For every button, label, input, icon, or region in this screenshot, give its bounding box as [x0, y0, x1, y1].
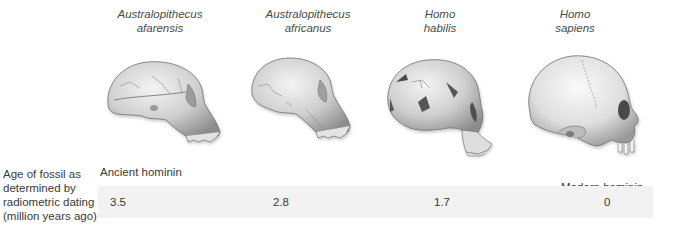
epithet: habilis: [390, 21, 490, 35]
skull-sapiens-illustration: [518, 50, 648, 162]
age-row-label: Age of fossil as determined by radiometr…: [3, 167, 97, 223]
age-value-sapiens: 0: [604, 196, 610, 208]
skull-afarensis-illustration: [100, 56, 230, 156]
ancient-hominin-label: Ancient hominin: [100, 166, 182, 178]
species-label-habilis: Homo habilis: [390, 7, 490, 35]
epithet: africanus: [246, 21, 370, 35]
row-label-line: determined by: [3, 181, 97, 195]
row-label-line: radiometric dating: [3, 195, 97, 209]
age-band: [98, 186, 653, 218]
row-label-line: Age of fossil as: [3, 167, 97, 181]
species-label-africanus: Australopithecus africanus: [246, 7, 370, 35]
genus: Homo: [525, 7, 625, 21]
genus: Homo: [390, 7, 490, 21]
age-value-afarensis: 3.5: [110, 196, 126, 208]
age-value-habilis: 1.7: [434, 196, 450, 208]
epithet: sapiens: [525, 21, 625, 35]
skull-africanus-illustration: [246, 52, 366, 152]
species-label-afarensis: Australopithecus afarensis: [98, 7, 222, 35]
row-label-line: (million years ago): [3, 209, 97, 223]
skull-habilis-illustration: [382, 52, 502, 162]
age-value-africanus: 2.8: [273, 196, 289, 208]
epithet: afarensis: [98, 21, 222, 35]
genus: Australopithecus: [98, 7, 222, 21]
genus: Australopithecus: [246, 7, 370, 21]
species-label-sapiens: Homo sapiens: [525, 7, 625, 35]
